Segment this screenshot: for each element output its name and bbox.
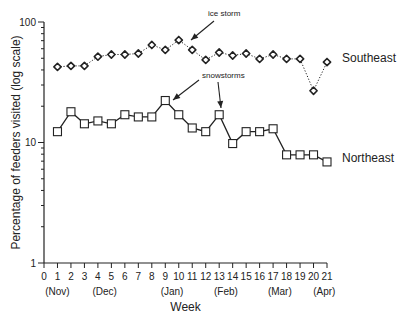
x-tick-label: 15 [241,271,253,282]
square-marker [202,128,210,136]
diamond-marker [148,41,155,48]
x-tick-label: 10 [173,271,185,282]
x-tick-label: 20 [308,271,320,282]
y-tick-label: 100 [19,17,36,28]
month-label: (Mar) [268,286,292,297]
diamond-marker [54,63,61,70]
x-axis-title: Week [170,300,201,314]
diamond-marker [216,49,223,56]
x-tick-label: 9 [163,271,169,282]
chart: 1101000123456789101112131415161718192021… [0,0,407,326]
diamond-marker [81,62,88,69]
diamond-marker [94,53,101,60]
diamond-marker [121,51,128,58]
square-marker [53,128,61,136]
diamond-marker [296,55,303,62]
snowstorms-annotation: snowstorms [202,71,245,80]
square-marker [215,111,223,119]
diamond-marker [229,52,236,59]
x-tick-label: 8 [149,271,155,282]
x-tick-label: 21 [321,271,333,282]
labels: 1101000123456789101112131415161718192021… [9,9,397,314]
square-marker [134,113,142,121]
month-label: (Jan) [161,286,184,297]
square-marker [148,113,156,121]
square-marker [161,97,169,105]
square-marker [269,125,277,133]
x-tick-label: 13 [214,271,226,282]
x-tick-label: 12 [200,271,212,282]
square-marker [296,151,304,159]
x-tick-label: 5 [109,271,115,282]
square-marker [283,151,291,159]
x-tick-label: 1 [55,271,61,282]
square-marker [229,140,237,148]
square-marker [67,108,75,116]
x-tick-label: 6 [122,271,128,282]
square-marker [121,111,129,119]
square-marker [323,158,331,166]
diamond-marker [108,51,115,58]
square-marker [188,124,196,132]
x-tick-label: 17 [268,271,280,282]
arrowhead-icon [173,93,180,100]
x-tick-label: 2 [68,271,74,282]
square-marker [242,128,250,136]
x-tick-label: 3 [82,271,88,282]
square-marker [94,117,102,125]
x-tick-label: 11 [187,271,198,282]
arrowhead-icon [217,101,223,108]
southeast-label: Southeast [342,51,397,65]
month-label: (Nov) [45,286,69,297]
square-marker [256,128,264,136]
month-label: (Apr) [313,286,335,297]
diamond-marker [269,51,276,58]
x-tick-label: 14 [227,271,239,282]
y-axis-title: Percentage of feeders visited (log scale… [9,35,23,249]
diamond-marker [175,36,182,43]
diamond-marker [243,50,250,57]
plot-area [53,21,331,166]
y-tick-label: 10 [25,137,37,148]
x-tick-label: 16 [254,271,266,282]
diamond-marker [202,56,209,63]
x-tick-label: 18 [281,271,293,282]
x-tick-label: 7 [136,271,142,282]
x-tick-label: 4 [95,271,101,282]
diamond-marker [135,50,142,57]
square-marker [310,151,318,159]
x-tick-label: 19 [294,271,306,282]
square-marker [107,120,115,128]
diamond-marker [256,55,263,62]
northeast-label: Northeast [342,151,395,165]
diamond-marker [162,46,169,53]
y-tick-label: 1 [30,258,36,269]
diamond-marker [67,62,74,69]
month-label: (Feb) [214,286,238,297]
ice-storm-annotation: ice storm [208,9,241,18]
x-tick-label: 0 [41,271,47,282]
diamond-marker [310,87,317,94]
square-marker [175,111,183,119]
diamond-marker [283,55,290,62]
month-label: (Dec) [92,286,116,297]
diamond-marker [323,58,330,65]
square-marker [80,120,88,128]
